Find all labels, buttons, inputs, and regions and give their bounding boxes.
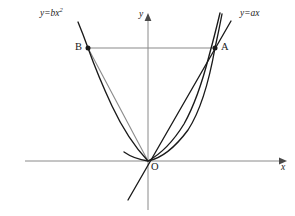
equation-parabola-exponent: 2 <box>60 6 63 13</box>
point-a-label: A <box>221 42 229 53</box>
point-a-marker <box>213 46 218 51</box>
y-axis-label: y <box>139 10 143 20</box>
equation-parabola-rhs: bx <box>51 8 60 18</box>
y-axis-arrowhead <box>145 13 152 21</box>
point-b-marker <box>86 46 91 51</box>
x-axis-label: x <box>281 163 285 173</box>
origin-label: O <box>151 162 159 173</box>
curve-parabola-b <box>78 13 220 161</box>
figure-canvas <box>0 0 295 216</box>
segment-bo <box>88 48 148 161</box>
equation-line-rhs: ax <box>251 8 260 18</box>
y-axis <box>145 13 152 210</box>
equation-label-line: y=ax <box>240 9 260 19</box>
math-figure: y=bx2 y=ax y x A B O <box>0 0 295 216</box>
equation-label-parabola: y=bx2 <box>40 9 63 19</box>
point-b-label: B <box>75 42 82 53</box>
